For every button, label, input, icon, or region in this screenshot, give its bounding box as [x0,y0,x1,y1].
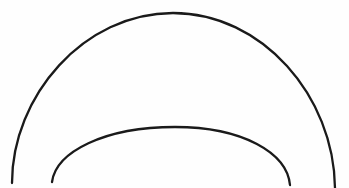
figure-canvas [0,0,349,188]
drawing-background [0,0,349,188]
arcs-drawing [0,0,349,188]
